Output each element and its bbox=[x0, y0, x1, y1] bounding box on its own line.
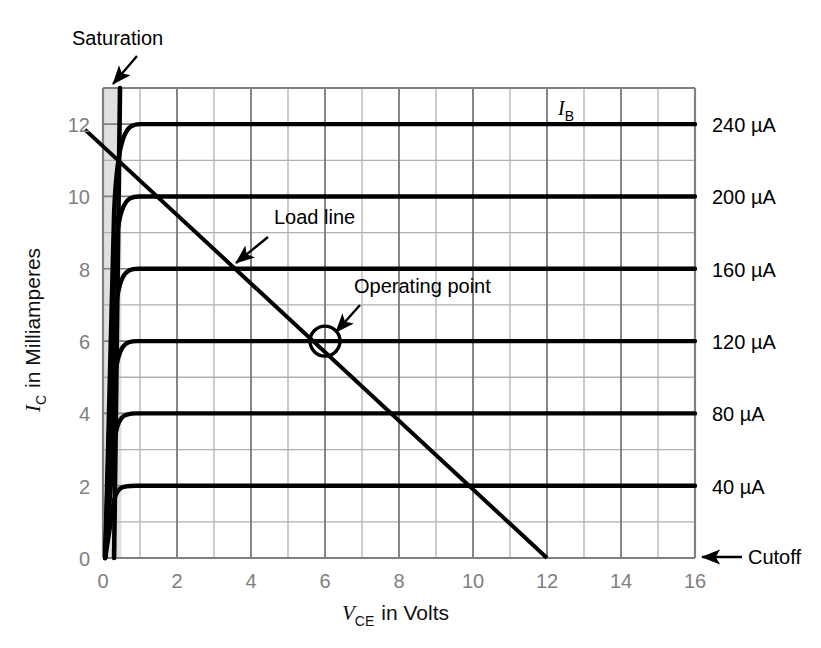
operating-point-arrow bbox=[336, 305, 360, 332]
x-tick-16: 16 bbox=[684, 570, 706, 592]
x-tick-12: 12 bbox=[536, 570, 558, 592]
x-tick-14: 14 bbox=[610, 570, 632, 592]
y-axis-tick-labels: 024681012 bbox=[68, 114, 90, 570]
curve-label-120ua: 120 µA bbox=[712, 331, 776, 353]
load-line-label: Load line bbox=[274, 206, 355, 228]
y-tick-8: 8 bbox=[79, 259, 90, 281]
curve-label-200ua: 200 µA bbox=[712, 186, 776, 208]
annotation-cutoff: Cutoff bbox=[702, 546, 801, 568]
operating-point-label: Operating point bbox=[354, 275, 491, 297]
chart-canvas: 0246810121416 024681012 240 µA200 µA160 … bbox=[0, 0, 821, 648]
ib-legend-title: IB bbox=[557, 97, 574, 124]
curve-label-80ua: 80 µA bbox=[712, 403, 765, 425]
x-tick-4: 4 bbox=[245, 570, 256, 592]
y-tick-4: 4 bbox=[79, 403, 90, 425]
annotation-operating-point: Operating point bbox=[336, 275, 491, 332]
y-tick-6: 6 bbox=[79, 331, 90, 353]
ib-symbol: IB bbox=[557, 97, 574, 124]
x-axis-tick-labels: 0246810121416 bbox=[97, 570, 706, 592]
load-line bbox=[85, 130, 547, 558]
saturation-arrow bbox=[113, 56, 137, 84]
y-tick-10: 10 bbox=[68, 186, 90, 208]
transistor-characteristic-curves-figure: 0246810121416 024681012 240 µA200 µA160 … bbox=[0, 0, 821, 648]
x-tick-0: 0 bbox=[97, 570, 108, 592]
svg-text:ICin Milliamperes: ICin Milliamperes bbox=[21, 248, 49, 413]
curve-label-240ua: 240 µA bbox=[712, 114, 776, 136]
svg-text:VCEin Volts: VCEin Volts bbox=[342, 601, 449, 629]
curve-value-labels: 240 µA200 µA160 µA120 µA80 µA40 µA bbox=[712, 114, 776, 498]
x-tick-8: 8 bbox=[393, 570, 404, 592]
load-line-arrow bbox=[236, 237, 268, 263]
y-tick-12: 12 bbox=[68, 114, 90, 136]
x-tick-6: 6 bbox=[319, 570, 330, 592]
curve-label-40ua: 40 µA bbox=[712, 476, 765, 498]
x-tick-2: 2 bbox=[171, 570, 182, 592]
characteristic-curves bbox=[105, 88, 695, 558]
curve-label-160ua: 160 µA bbox=[712, 259, 776, 281]
annotation-load-line: Load line bbox=[236, 206, 355, 263]
cutoff-label: Cutoff bbox=[748, 546, 801, 568]
annotation-saturation: Saturation bbox=[72, 27, 163, 84]
x-axis-title: VCEin Volts bbox=[342, 601, 449, 629]
y-tick-0: 0 bbox=[79, 548, 90, 570]
saturation-label: Saturation bbox=[72, 27, 163, 49]
y-axis-title: ICin Milliamperes bbox=[21, 248, 49, 413]
y-tick-2: 2 bbox=[79, 476, 90, 498]
x-tick-10: 10 bbox=[462, 570, 484, 592]
